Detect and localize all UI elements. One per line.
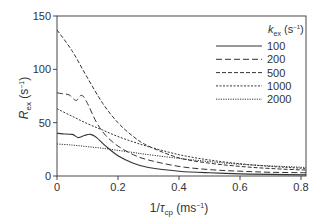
x-axis-ticks: 00.20.40.60.8 <box>54 176 309 193</box>
y-axis-ticks: 050100150 <box>33 10 57 182</box>
y-axis-label: Rex (s−1) <box>17 77 33 119</box>
legend-label-2000: 2000 <box>267 93 291 105</box>
legend-title: kex (s−1) <box>268 23 304 37</box>
y-tick-label: 150 <box>33 10 51 22</box>
series-line-100 <box>57 133 307 175</box>
legend-label-1000: 1000 <box>267 80 291 92</box>
x-tick-label: 0.8 <box>293 181 308 193</box>
x-tick-label: 0.6 <box>232 181 247 193</box>
y-tick-label: 100 <box>33 63 51 75</box>
legend-label-100: 100 <box>267 40 285 52</box>
y-tick-label: 50 <box>39 117 51 129</box>
y-tick-label: 0 <box>45 170 51 182</box>
x-tick-label: 0.2 <box>110 181 125 193</box>
chart: 050100150 00.20.40.60.8 1002005001000200… <box>0 0 323 222</box>
x-tick-label: 0.4 <box>171 181 186 193</box>
legend-label-500: 500 <box>267 67 285 79</box>
x-tick-label: 0 <box>54 181 60 193</box>
x-axis-label: 1/τcp (ms−1) <box>150 201 208 217</box>
legend: 10020050010002000 <box>216 40 291 105</box>
legend-label-200: 200 <box>267 53 285 65</box>
